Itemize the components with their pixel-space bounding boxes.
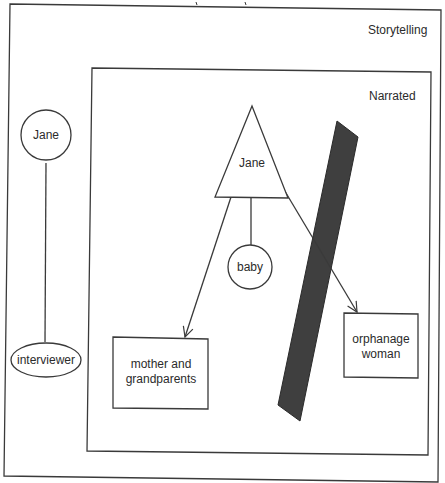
- interviewer-label: interviewer: [17, 353, 75, 367]
- storytelling-label: Storytelling: [368, 23, 427, 37]
- mother-label-line1: mother and: [131, 357, 192, 371]
- narrator-interviewer-edge: [45, 163, 46, 342]
- orphanage-label-line1: orphanage: [352, 332, 410, 346]
- diagram-canvas: Storytelling Narrated Jane interviewer J…: [0, 0, 445, 483]
- cropped-header-fragment: [196, 2, 246, 5]
- jane-mother-arrow: [185, 197, 231, 337]
- protagonist-jane-triangle: [215, 106, 288, 198]
- narrator-jane-label: Jane: [33, 128, 59, 142]
- baby-label: baby: [237, 260, 263, 274]
- orphanage-label-line2: woman: [361, 347, 401, 361]
- storytelling-frame: [4, 4, 441, 482]
- narrated-label: Narrated: [369, 89, 416, 103]
- mother-label-line2: grandparents: [126, 372, 197, 386]
- protagonist-jane-label: Jane: [239, 156, 265, 170]
